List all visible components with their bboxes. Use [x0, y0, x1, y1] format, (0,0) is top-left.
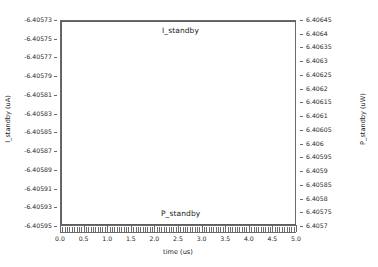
- x-minor-tick: [173, 227, 174, 232]
- plot-area: [60, 20, 296, 226]
- x-minor-tick: [223, 227, 224, 232]
- x-major-tick: [272, 225, 273, 232]
- x-minor-tick: [159, 227, 160, 232]
- x-minor-tick: [282, 227, 283, 232]
- y-tick-mark-right: [300, 61, 303, 62]
- x-tick-label: 3.5: [220, 235, 230, 242]
- y-tick-mark-right: [300, 20, 303, 21]
- y-tick-label-right: 6.406: [306, 140, 324, 146]
- y-axis-right-ticks: 6.406456.40646.406356.40636.406256.40626…: [300, 20, 356, 226]
- y-tick-mark-right: [300, 212, 303, 213]
- x-minor-tick: [244, 227, 245, 232]
- x-axis-label: time (us): [60, 248, 296, 256]
- x-tick-label: 3.0: [197, 235, 207, 242]
- x-minor-tick: [268, 227, 269, 232]
- x-minor-tick: [91, 227, 92, 232]
- x-minor-tick: [187, 227, 188, 232]
- x-minor-tick: [150, 227, 151, 232]
- y-tick-mark-right: [300, 226, 303, 227]
- y-tick-mark-right: [300, 75, 303, 76]
- y-tick-label-right: 6.40595: [306, 154, 332, 160]
- y-tick-mark-right: [300, 116, 303, 117]
- x-minor-tick: [138, 227, 139, 232]
- y-tick-label-right: 6.4062: [306, 86, 328, 92]
- x-minor-tick: [277, 227, 278, 232]
- y-tick-mark-left: [54, 132, 57, 133]
- y-axis-left-label: I_standby (uA): [4, 89, 12, 149]
- y-tick-label-left: -6.40591: [24, 185, 52, 191]
- y-tick-label-left: -6.40575: [24, 36, 52, 42]
- x-minor-tick: [93, 227, 94, 232]
- x-minor-tick: [74, 227, 75, 232]
- x-minor-tick: [256, 227, 257, 232]
- x-minor-tick: [98, 227, 99, 232]
- x-minor-tick: [133, 227, 134, 232]
- x-minor-tick: [211, 227, 212, 232]
- x-minor-tick: [199, 227, 200, 232]
- x-minor-tick: [192, 227, 193, 232]
- y-tick-label-left: -6.40581: [24, 92, 52, 98]
- x-minor-tick: [291, 227, 292, 232]
- x-minor-tick: [213, 227, 214, 232]
- x-minor-tick: [183, 227, 184, 232]
- x-minor-tick: [228, 227, 229, 232]
- x-minor-tick: [110, 227, 111, 232]
- x-minor-tick: [180, 227, 181, 232]
- x-minor-tick: [235, 227, 236, 232]
- x-minor-tick: [263, 227, 264, 232]
- y-tick-label-right: 6.40625: [306, 72, 332, 78]
- x-minor-tick: [237, 227, 238, 232]
- x-tick-label: 2.5: [173, 235, 183, 242]
- x-minor-tick: [72, 227, 73, 232]
- x-major-tick: [296, 225, 297, 232]
- x-minor-tick: [62, 227, 63, 232]
- y-tick-label-left: -6.40587: [24, 148, 52, 154]
- y-tick-mark-left: [54, 57, 57, 58]
- x-minor-tick: [67, 227, 68, 232]
- x-minor-tick: [204, 227, 205, 232]
- x-minor-tick: [239, 227, 240, 232]
- x-minor-tick: [102, 227, 103, 232]
- x-minor-tick: [65, 227, 66, 232]
- trace-i-standby: [61, 21, 296, 22]
- y-tick-mark-right: [300, 157, 303, 158]
- x-minor-tick: [190, 227, 191, 232]
- y-tick-label-left: -6.40583: [24, 111, 52, 117]
- x-minor-tick: [284, 227, 285, 232]
- x-minor-tick: [100, 227, 101, 232]
- x-minor-tick: [86, 227, 87, 232]
- y-axis-right-label: P_standby (uW): [359, 89, 367, 149]
- x-tick-label: 4.5: [267, 235, 277, 242]
- x-minor-tick: [128, 227, 129, 232]
- x-major-tick: [154, 225, 155, 232]
- y-tick-mark-right: [300, 144, 303, 145]
- x-minor-tick: [209, 227, 210, 232]
- x-major-tick: [60, 225, 61, 232]
- x-tick-label: 0.5: [79, 235, 89, 242]
- x-minor-tick: [117, 227, 118, 232]
- x-major-tick: [178, 225, 179, 232]
- x-minor-tick: [79, 227, 80, 232]
- y-tick-mark-right: [300, 89, 303, 90]
- x-minor-tick: [171, 227, 172, 232]
- x-minor-tick: [152, 227, 153, 232]
- x-minor-tick: [287, 227, 288, 232]
- y-tick-label-left: -6.40579: [24, 73, 52, 79]
- y-tick-mark-left: [54, 207, 57, 208]
- x-minor-tick: [143, 227, 144, 232]
- x-minor-tick: [197, 227, 198, 232]
- x-major-tick: [249, 225, 250, 232]
- y-tick-mark-right: [300, 102, 303, 103]
- x-minor-tick: [258, 227, 259, 232]
- trace-i-standby-rise: [61, 21, 62, 225]
- x-minor-tick: [261, 227, 262, 232]
- x-minor-tick: [145, 227, 146, 232]
- y-tick-label-left: -6.40595: [24, 223, 52, 229]
- y-tick-mark-left: [54, 151, 57, 152]
- x-minor-tick: [126, 227, 127, 232]
- x-minor-tick: [206, 227, 207, 232]
- y-tick-mark-left: [54, 95, 57, 96]
- x-minor-tick: [119, 227, 120, 232]
- x-minor-tick: [166, 227, 167, 232]
- x-minor-tick: [105, 227, 106, 232]
